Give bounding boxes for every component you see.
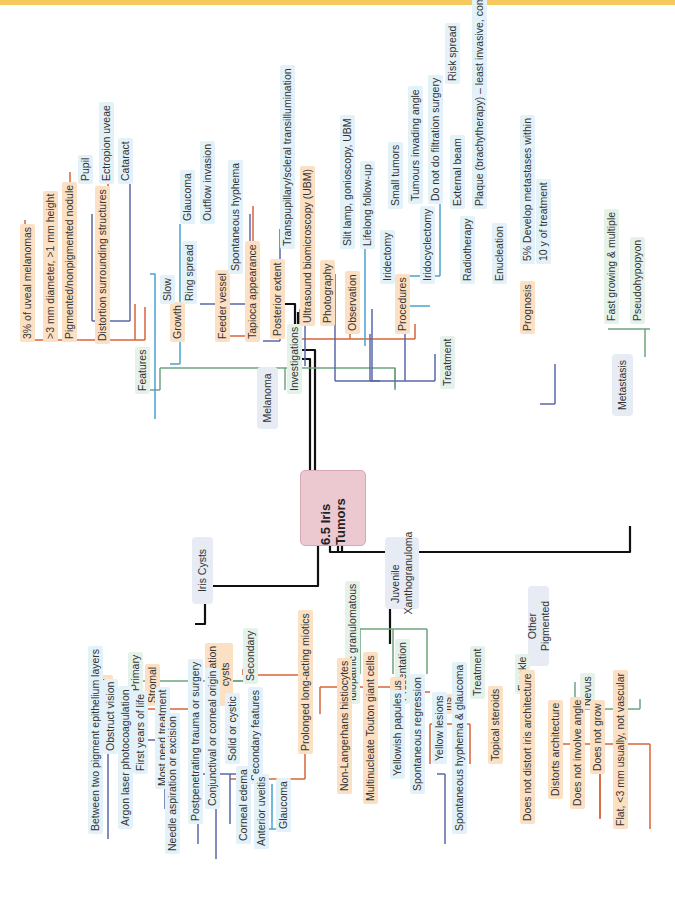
node-text: Procedures <box>396 277 408 331</box>
investigation-transillumination[interactable]: Transpupillary/scleral transillumination <box>280 65 295 249</box>
cutaneous-yellowish-papules[interactable]: Yellowish papules <box>390 690 405 779</box>
melanoma-investigations[interactable]: Investigations <box>287 324 302 394</box>
procedure-radiotherapy[interactable]: Radiotherapy <box>460 216 475 284</box>
secondary-features-glaucoma[interactable]: Glaucoma <box>276 778 291 832</box>
category-jxg-label-1: Juvenile <box>389 564 402 603</box>
secondary-features-anterior-uveitis[interactable]: Anterior uveitis <box>254 774 269 849</box>
node-text: Flat, <3 mm usually, not vascular <box>614 673 626 826</box>
observation-lifelong-follow-up[interactable]: Lifelong follow-up <box>360 161 375 249</box>
iris-yellow-lesions[interactable]: Yellow lesions <box>432 692 447 764</box>
node-text: First years of life <box>134 694 146 771</box>
jxg-topical-steroids[interactable]: Topical steroids <box>488 686 503 764</box>
node-text: Cataract <box>119 141 131 181</box>
node-text: Needle aspiration or excision <box>166 716 178 851</box>
node-text: External beam <box>451 138 463 206</box>
feature-item[interactable]: >3 mm diameter, >1 mm height <box>43 191 58 342</box>
investigation-ubm[interactable]: Ultrasound biomicroscopy (UBM) <box>300 166 315 326</box>
jxg-treatment[interactable]: Treatment <box>470 646 485 699</box>
stromal-first-years[interactable]: First years of life <box>133 691 148 774</box>
metastasis-pseudohypopyon[interactable]: Pseudohypopyon <box>630 237 645 324</box>
jxg-non-langerhans[interactable]: Non-Langerhans histiocytes <box>337 658 352 794</box>
radiotherapy-plaque[interactable]: Plaque (brachytherapy) – least invasive,… <box>472 0 487 209</box>
epithelial-between-layers[interactable]: Between two pigment epithelium layers <box>88 646 103 834</box>
node-text: Iridectomy <box>381 233 393 281</box>
metastasis-fast-growing[interactable]: Fast growing & multiple <box>604 209 619 324</box>
no-filtration-risk-spread[interactable]: Risk spread <box>445 23 460 84</box>
category-metastasis-label: Metastasis <box>616 360 629 410</box>
feature-item-growth[interactable]: Growth <box>170 302 185 342</box>
feature-item-feeder-vessel[interactable]: Feeder vessel <box>215 270 230 342</box>
category-iris-cysts-label: Iris Cysts <box>196 549 209 592</box>
nevus-does-not-grow[interactable]: Does not grow <box>590 700 605 774</box>
growth-ring-spread[interactable]: Ring spread <box>182 241 197 304</box>
node-text: Does not distort iris architecture <box>521 673 533 821</box>
implantation-conjunctival-origin[interactable]: Conjunctival or corneal origin <box>205 668 220 809</box>
node-text: Do not do filtration surgery <box>429 78 441 201</box>
node-text: Slit lamp, gonioscopy, UBM <box>341 118 353 246</box>
category-iris-cysts[interactable]: Iris Cysts <box>192 537 213 604</box>
jxg-touton-cells[interactable]: Multinucleate Touton giant cells <box>363 652 378 804</box>
feature-item-distortion[interactable]: Distortion surrounding structures <box>95 186 110 344</box>
node-text: Secondary <box>244 631 256 681</box>
freckle-does-not-distort[interactable]: Does not distort iris architecture <box>520 670 535 824</box>
treatment-prognosis[interactable]: Prognosis <box>520 281 535 334</box>
node-text: Postpenetrating trauma or surgery <box>189 662 201 821</box>
growth-slow[interactable]: Slow <box>160 275 175 304</box>
node-text: Spontaneous hyphema <box>229 163 241 271</box>
category-other-pigmented[interactable]: Other Pigmented <box>528 586 549 666</box>
implantation-postpenetrating[interactable]: Postpenetrating trauma or surgery <box>188 659 203 824</box>
nevus-does-not-involve-angle[interactable]: Does not involve angle <box>570 697 585 809</box>
node-text: Solid or cystic <box>226 696 238 761</box>
implantation-solid-cystic[interactable]: Solid or cystic <box>225 693 240 764</box>
node-text: Yellowish papules <box>391 693 403 776</box>
iridocyclectomy-no-filtration[interactable]: Do not do filtration surgery <box>428 75 443 204</box>
feature-item[interactable]: 3% of uveal melanomas <box>20 224 35 342</box>
procedure-enucleation[interactable]: Enucleation <box>492 223 507 284</box>
growth-glaucoma[interactable]: Glaucoma <box>180 170 195 224</box>
node-text: Risk spread <box>446 26 458 81</box>
category-melanoma-label: Melanoma <box>261 373 274 422</box>
distortion-ectropion[interactable]: Ectropion uveae <box>99 102 114 184</box>
obstruct-vision-argon-laser[interactable]: Argon laser photocoagulation <box>118 686 133 829</box>
growth-outflow-invasion[interactable]: Outflow invasion <box>200 141 215 224</box>
observation-slit-lamp[interactable]: Slit lamp, gonioscopy, UBM <box>340 115 355 249</box>
secondary-prolonged-miotics[interactable]: Prolonged long-acting miotics <box>298 610 313 754</box>
procedure-iridocyclectomy[interactable]: Iridocyclectomy <box>420 206 435 284</box>
category-metastasis[interactable]: Metastasis <box>612 354 633 416</box>
investigations-label: Investigations <box>288 327 300 391</box>
cutaneous-spontaneous-regression[interactable]: Spontaneous regression <box>410 674 425 794</box>
node-text: Plaque (brachytherapy) – least invasive,… <box>473 0 485 206</box>
epithelial-obstruct-vision[interactable]: Obstruct vision <box>103 679 118 754</box>
node-text: Glaucoma <box>277 781 289 829</box>
node-text: Multinucleate Touton giant cells <box>364 655 376 801</box>
category-juvenile-xanthogranuloma[interactable]: Juvenile Xanthogranuloma <box>385 537 419 609</box>
melanoma-features[interactable]: Features <box>135 347 150 394</box>
prognosis-text-line-1[interactable]: 5% Develop metastases within <box>520 115 535 264</box>
iris-cysts-secondary[interactable]: Secondary <box>243 628 258 684</box>
node-text: Does not involve angle <box>571 700 583 806</box>
root-node-iris-tumors[interactable]: 6.5 Iris Tumors <box>300 470 366 546</box>
feature-item-tapioca[interactable]: Tapioca appearance <box>245 241 260 342</box>
iridocyclectomy-tumours-angle[interactable]: Tumours invading angle <box>408 86 423 204</box>
distortion-cataract[interactable]: Cataract <box>118 138 133 184</box>
secondary-features-corneal-edema[interactable]: Corneal edema <box>236 766 251 844</box>
distortion-pupil[interactable]: Pupil <box>78 155 93 184</box>
nevus-distorts-architecture[interactable]: Distorts architecture <box>548 700 563 799</box>
node-text: Observation <box>346 274 358 331</box>
prognosis-text-line-2[interactable]: 10 y of treatment <box>536 179 551 264</box>
melanoma-treatment[interactable]: Treatment <box>440 336 455 389</box>
category-melanoma[interactable]: Melanoma <box>257 367 278 429</box>
procedure-iridectomy[interactable]: Iridectomy <box>380 230 395 284</box>
feeder-spontaneous-hyphema[interactable]: Spontaneous hyphema <box>228 160 243 274</box>
iridectomy-small-tumors[interactable]: Small tumors <box>388 142 403 209</box>
treatment-procedures[interactable]: Procedures <box>395 274 410 334</box>
iris-hyphema-glaucoma[interactable]: Spontaneous hyphema & glaucoma <box>452 662 467 834</box>
treatment-observation[interactable]: Observation <box>345 271 360 334</box>
investigation-posterior-extent[interactable]: Posterior extent <box>270 259 285 339</box>
radiotherapy-external-beam[interactable]: External beam <box>450 135 465 209</box>
node-text: Distorts architecture <box>549 703 561 796</box>
feature-item[interactable]: Pigmented/nonpigmented nodule <box>62 182 77 342</box>
nevus-flat-not-vascular[interactable]: Flat, <3 mm usually, not vascular <box>613 670 628 829</box>
most-need-needle-aspiration[interactable]: Needle aspiration or excision <box>165 713 180 854</box>
investigation-photography[interactable]: Photography <box>320 260 335 326</box>
